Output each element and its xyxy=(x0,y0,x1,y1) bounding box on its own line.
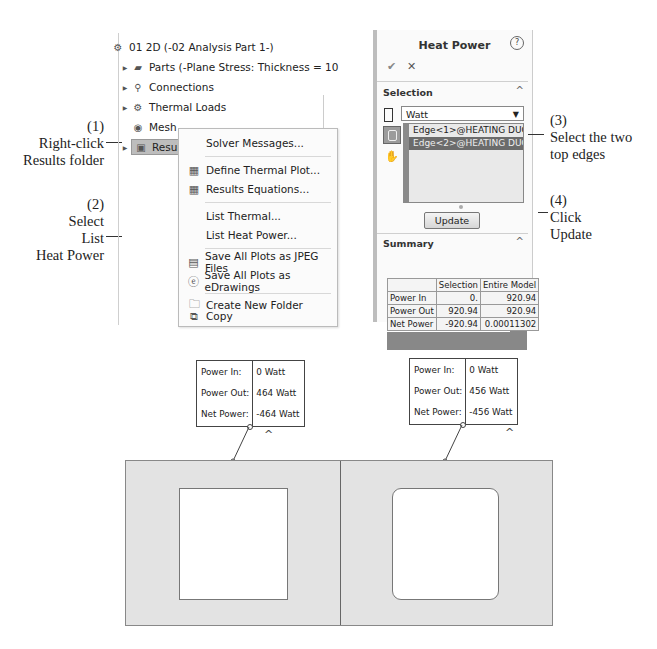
square-heating-duct[interactable] xyxy=(179,488,288,600)
rounded-heating-duct[interactable] xyxy=(392,488,499,600)
plate-divider-line xyxy=(340,461,341,625)
model-plate[interactable] xyxy=(125,460,553,626)
